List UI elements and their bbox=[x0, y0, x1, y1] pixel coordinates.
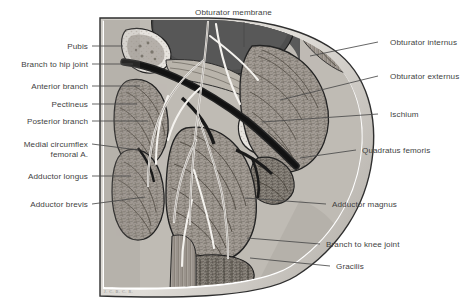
label-pubis: Pubis bbox=[8, 42, 88, 52]
label-posterior-branch: Posterior branch bbox=[4, 117, 88, 127]
label-medial-circumflex-femoral: Medial circumflex femoral A. bbox=[2, 140, 88, 161]
label-anterior-branch: Anterior branch bbox=[4, 82, 88, 92]
label-adductor-longus: Adductor longus bbox=[4, 172, 88, 182]
label-pectineus: Pectineus bbox=[8, 100, 88, 110]
label-medial-circumflex-line1: Medial circumflex bbox=[24, 140, 88, 149]
label-obturator-internus: Obturator internus bbox=[390, 38, 457, 48]
label-adductor-magnus: Adductor magnus bbox=[332, 200, 397, 210]
label-quadratus-femoris: Quadratus femoris bbox=[362, 146, 430, 156]
label-adductor-brevis: Adductor brevis bbox=[4, 200, 88, 210]
label-ischium: Ischium bbox=[390, 110, 419, 120]
label-obturator-externus: Obturator externus bbox=[390, 72, 459, 82]
anatomical-figure: Obturator membrane Pubis Branch to hip j… bbox=[0, 0, 471, 307]
artist-signature: J. C. B. C. R. bbox=[104, 289, 133, 294]
label-branch-to-knee-joint: Branch to knee joint bbox=[326, 240, 400, 250]
label-obturator-membrane: Obturator membrane bbox=[195, 8, 272, 18]
label-medial-circumflex-line2: femoral A. bbox=[51, 150, 88, 159]
label-branch-to-hip-joint: Branch to hip joint bbox=[2, 60, 88, 70]
label-gracilis: Gracilis bbox=[336, 262, 364, 272]
